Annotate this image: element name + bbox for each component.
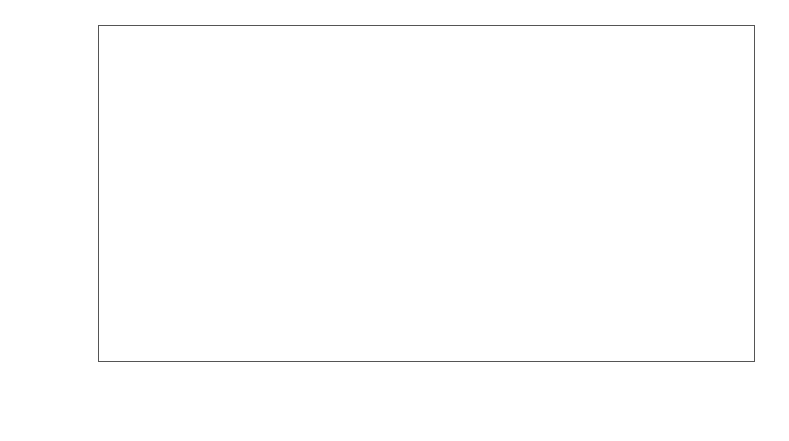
regression-layer xyxy=(99,26,755,362)
plot-panel xyxy=(98,25,755,362)
y-axis-title xyxy=(16,0,44,441)
scatter-plot-figure xyxy=(0,0,789,441)
